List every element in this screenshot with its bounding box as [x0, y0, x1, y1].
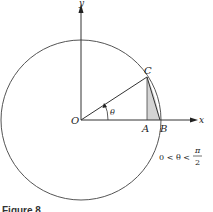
point-b-label: B	[159, 123, 167, 134]
condition-numerator: π	[194, 146, 201, 155]
origin-label: O	[71, 115, 79, 126]
point-c-label: C	[144, 65, 152, 76]
x-axis-arrow-icon	[190, 118, 198, 123]
condition-text: 0 < θ <	[159, 153, 190, 162]
angle-label: θ	[110, 108, 115, 117]
x-axis-label: x	[199, 115, 204, 125]
point-a-label: A	[141, 123, 149, 134]
y-axis-label: y	[78, 0, 85, 8]
figure-caption: Figure 8	[2, 205, 41, 212]
unit-circle-diagram: y x O A B C θ 0 < θ < π 2 Figure 8	[0, 0, 213, 212]
condition-denominator: 2	[195, 158, 200, 167]
